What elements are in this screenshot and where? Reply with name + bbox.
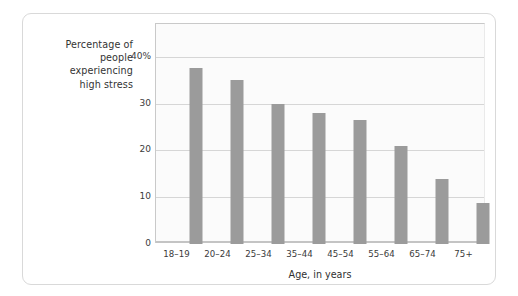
y-tick-label: 30	[117, 98, 151, 108]
bar[interactable]	[189, 68, 202, 244]
bar-slot	[298, 24, 339, 244]
bar-slot	[421, 24, 462, 244]
bar-slot	[257, 24, 298, 244]
y-axis-title-line-1: Percentage of	[37, 38, 133, 51]
x-tick-label: 55–64	[360, 249, 404, 259]
bar[interactable]	[353, 120, 366, 244]
bar[interactable]	[394, 146, 407, 244]
bar[interactable]	[312, 113, 325, 244]
bar-series	[175, 24, 503, 244]
x-tick-label: 65–74	[401, 249, 445, 259]
y-tick-label: 0	[117, 238, 151, 248]
plot-area	[155, 23, 485, 243]
bar-slot	[462, 24, 503, 244]
chart-page: Percentage of people experiencing high s…	[0, 0, 518, 296]
bar-slot	[339, 24, 380, 244]
bar[interactable]	[230, 80, 243, 244]
plot-frame: 010203040% 18–1920–2425–3435–4445–5455–6…	[137, 23, 485, 257]
y-axis-title-line-4: high stress	[37, 78, 133, 91]
bar[interactable]	[435, 179, 448, 244]
bar-slot	[216, 24, 257, 244]
y-axis-title: Percentage of people experiencing high s…	[37, 38, 133, 91]
bar-slot	[175, 24, 216, 244]
y-axis-title-line-3: experiencing	[37, 64, 133, 77]
x-tick-label: 25–34	[237, 249, 281, 259]
x-tick-label: 18–19	[155, 249, 199, 259]
bar[interactable]	[271, 104, 284, 244]
chart-card: Percentage of people experiencing high s…	[22, 13, 496, 285]
y-tick-label: 40%	[117, 51, 151, 61]
x-tick-label: 20–24	[196, 249, 240, 259]
x-axis-title: Age, in years	[155, 269, 485, 280]
bar[interactable]	[476, 203, 489, 244]
x-tick-label: 45–54	[319, 249, 363, 259]
x-tick-label: 35–44	[278, 249, 322, 259]
bar-slot	[380, 24, 421, 244]
y-tick-label: 10	[117, 191, 151, 201]
y-tick-label: 20	[117, 144, 151, 154]
x-tick-label: 75+	[442, 249, 486, 259]
